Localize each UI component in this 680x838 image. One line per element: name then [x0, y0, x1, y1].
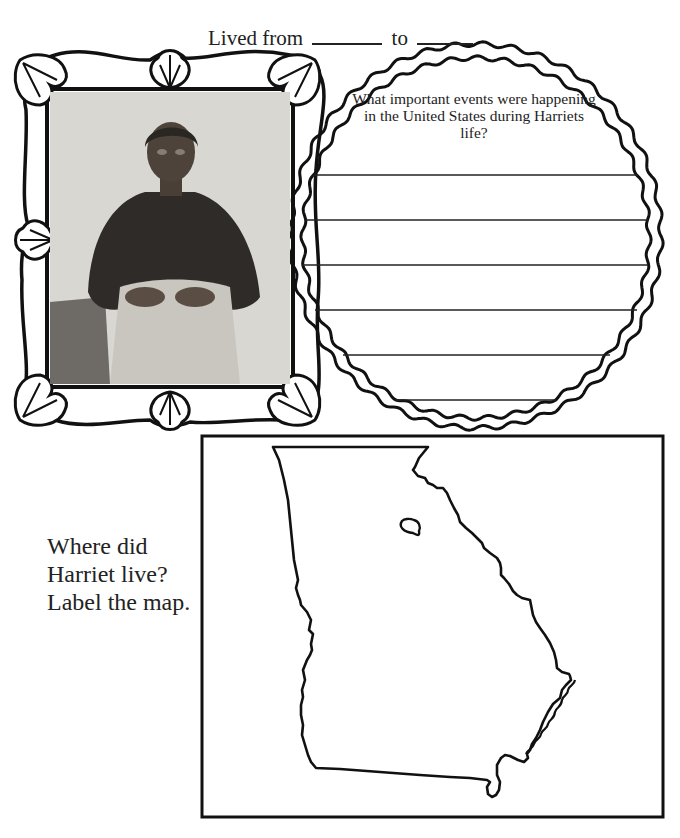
- georgia-state-outline[interactable]: [273, 447, 571, 797]
- events-question: What important events were happening in …: [352, 90, 596, 141]
- lived-from-blank[interactable]: [312, 42, 382, 45]
- lived-from-label: Lived from: [208, 26, 303, 50]
- lived-to-blank[interactable]: [417, 42, 473, 45]
- georgia-coast-islands: [526, 680, 575, 754]
- to-label: to: [392, 26, 408, 50]
- lived-from-to-line: Lived from to: [208, 26, 477, 51]
- portrait-figure: [50, 92, 290, 384]
- map-prompt: Where did Harriet live? Label the map.: [47, 532, 207, 616]
- map-box: [202, 436, 663, 817]
- portrait-photo: [50, 92, 290, 384]
- lake-shape: [401, 519, 420, 535]
